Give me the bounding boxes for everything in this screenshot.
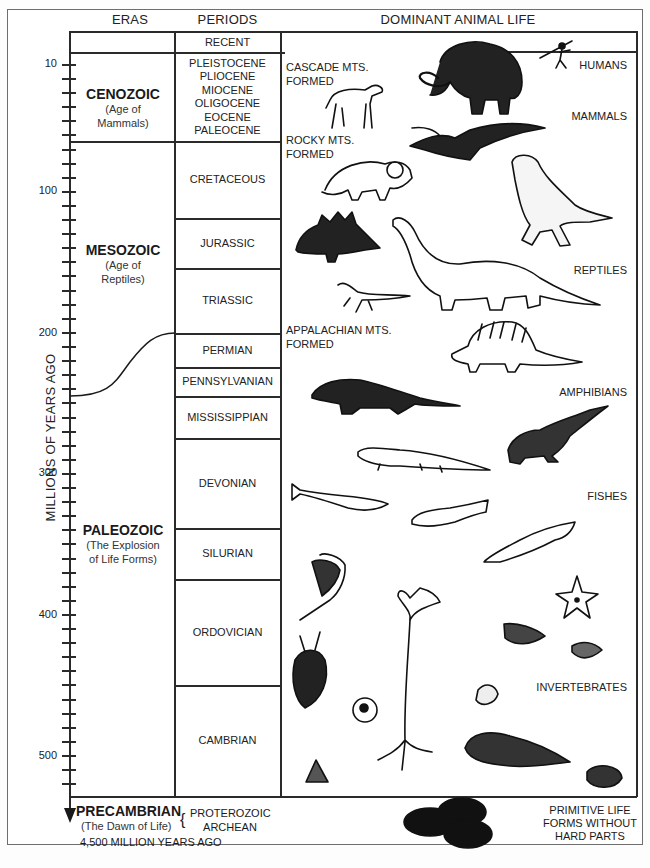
dimetrodon-icon (452, 322, 582, 372)
eryops-icon (312, 380, 460, 414)
sauropod-icon (393, 218, 600, 310)
fish-icon (292, 484, 388, 510)
gastropod-icon (306, 760, 328, 782)
shell-icon (476, 685, 498, 704)
trilobite-icon (293, 632, 326, 708)
amphibian-icon (508, 406, 608, 464)
human-icon (540, 41, 572, 68)
theropod-icon (512, 155, 612, 246)
ammonite-icon (353, 698, 377, 722)
triceratops-icon (322, 162, 412, 200)
starfish-icon (556, 576, 598, 618)
animal-illustrations (0, 0, 650, 868)
stromatolite-icon (404, 798, 492, 848)
crinoid-icon (378, 588, 440, 770)
clam-icon (587, 766, 622, 788)
eurypterid-icon (300, 554, 345, 620)
brachiopod-icon (504, 624, 602, 658)
stegosaurus-icon (296, 212, 380, 262)
fish-icon (484, 522, 575, 562)
mammoth-icon (420, 42, 522, 114)
fish-icon (412, 500, 488, 526)
ichthyostega-icon (358, 448, 490, 472)
small-reptile-icon (338, 283, 410, 312)
trilobite-icon (465, 733, 570, 767)
early-horse-icon (326, 85, 382, 128)
